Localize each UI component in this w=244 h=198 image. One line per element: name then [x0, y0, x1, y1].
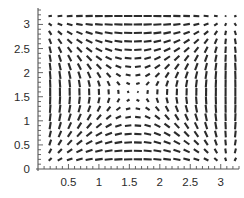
field-segment [50, 122, 51, 129]
field-segment [115, 49, 122, 50]
field-segment [59, 113, 61, 120]
field-segment [115, 142, 123, 143]
field-segment [206, 79, 207, 87]
field-segment [235, 47, 236, 53]
field-segment [196, 105, 197, 112]
x-tick-label: 1.5 [121, 176, 137, 188]
field-segment [235, 55, 236, 62]
field-segment [225, 140, 226, 146]
field-segment [136, 83, 139, 84]
field-segment [138, 91, 139, 93]
field-segment [144, 33, 152, 34]
field-segment [114, 151, 122, 152]
field-segment [60, 79, 61, 87]
field-segment [186, 80, 187, 87]
field-segment [126, 108, 130, 109]
field-segment [235, 131, 236, 138]
field-segment [235, 158, 237, 161]
field-segment [235, 149, 236, 154]
field-segment [225, 23, 226, 26]
y-tick-label: 3 [24, 18, 30, 30]
figure-background [0, 0, 244, 198]
field-segment [214, 16, 218, 17]
field-segment [163, 24, 171, 25]
field-segment [128, 91, 129, 93]
field-segment [95, 159, 103, 160]
origin-label: 0 [24, 163, 30, 175]
field-segment [127, 100, 130, 102]
plot-canvas: 0.511.522.5300.511.522.53 [0, 0, 244, 198]
field-segment [153, 159, 161, 160]
field-segment [105, 150, 113, 151]
field-segment [216, 71, 217, 79]
y-tick-label: 2 [24, 67, 30, 79]
field-segment [69, 105, 70, 113]
field-segment [163, 159, 171, 160]
field-segment [105, 159, 113, 160]
field-segment [225, 16, 227, 17]
field-segment [126, 75, 131, 76]
field-segment [144, 41, 152, 42]
field-segment [48, 16, 51, 17]
field-segment [144, 49, 151, 50]
field-segment [49, 131, 51, 138]
field-segment [50, 63, 51, 71]
field-segment [193, 24, 199, 25]
field-segment [186, 97, 187, 104]
x-tick-label: 0.5 [60, 176, 76, 188]
field-segment [163, 32, 170, 33]
field-segment [235, 122, 236, 129]
field-segment [234, 16, 236, 17]
field-segment [69, 96, 70, 104]
field-segment [76, 24, 82, 25]
y-tick-label: 1 [24, 115, 30, 127]
field-segment [59, 71, 60, 79]
field-segment [50, 71, 51, 79]
field-segment [124, 49, 131, 50]
x-tick-label: 2.5 [182, 176, 198, 188]
field-segment [216, 105, 217, 113]
field-segment [114, 33, 122, 34]
y-tick-label: 0.5 [14, 139, 30, 151]
field-segment [125, 117, 131, 118]
field-segment [79, 97, 80, 104]
field-segment [144, 142, 152, 143]
x-tick-label: 1 [96, 176, 102, 188]
field-segment [98, 97, 99, 103]
field-segment [67, 24, 73, 25]
field-segment [135, 125, 141, 126]
field-segment [225, 47, 226, 53]
field-segment [215, 122, 216, 129]
field-segment [173, 24, 180, 25]
field-segment [50, 105, 51, 113]
field-segment [144, 151, 152, 152]
field-segment [125, 125, 131, 126]
y-tick-label: 1.5 [14, 91, 30, 103]
field-segment [125, 66, 131, 67]
field-segment [205, 71, 206, 79]
field-segment [86, 24, 93, 25]
field-segment [136, 108, 140, 109]
field-segment [50, 113, 51, 121]
field-segment [225, 39, 226, 45]
field-segment [225, 31, 226, 35]
field-segment [69, 80, 70, 88]
field-segment [135, 58, 142, 59]
field-segment [126, 83, 129, 84]
field-segment [154, 150, 162, 151]
field-segment [153, 32, 161, 33]
field-segment [135, 75, 140, 76]
field-segment [225, 158, 226, 161]
field-segment [59, 105, 60, 113]
field-segment [115, 41, 123, 42]
field-segment [215, 63, 216, 71]
field-segment [215, 55, 216, 62]
field-segment [137, 100, 140, 101]
field-segment [166, 97, 167, 103]
field-segment [173, 159, 180, 160]
field-segment [234, 23, 236, 26]
field-segment [235, 140, 236, 146]
x-tick-label: 3 [218, 176, 224, 188]
field-segment [88, 80, 90, 87]
x-tick-label: 2 [157, 176, 163, 188]
